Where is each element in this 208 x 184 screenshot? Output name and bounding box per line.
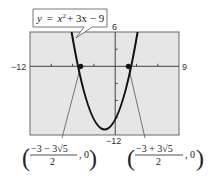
xmax-label: 9	[182, 62, 187, 72]
left-numerator: −3 − 3√5	[31, 143, 68, 154]
viewing-window	[30, 32, 179, 135]
right-numerator: −3 + 3√5	[136, 143, 173, 154]
intercept-point-right	[126, 64, 131, 69]
svg-text:): )	[89, 145, 97, 171]
graph-figure: −12 9 6 −12 y = x2+ 3x − 9 ( −3 − 3√5 2 …	[0, 0, 208, 184]
xmin-label: −12	[11, 62, 26, 72]
intercept-label-left: ( −3 − 3√5 2 , 0 )	[22, 143, 97, 172]
right-denominator: 2	[156, 156, 161, 167]
svg-text:): )	[196, 145, 204, 171]
eq-lhs: y	[36, 12, 42, 24]
eq-rest: + 3x − 9	[67, 12, 105, 24]
ymax-label: 6	[112, 22, 117, 32]
eq-exp: 2	[63, 12, 67, 20]
ymin-label: −12	[106, 136, 121, 146]
eq-equals: =	[47, 12, 53, 24]
svg-text:,: ,	[185, 149, 188, 160]
intercept-label-right: ( −3 + 3√5 2 , 0 )	[127, 143, 204, 171]
left-denominator: 2	[50, 156, 55, 167]
svg-text:y = x2+ 3x − 9: y = x2+ 3x − 9	[36, 12, 105, 24]
svg-text:,: ,	[79, 149, 82, 160]
svg-text:(: (	[22, 143, 30, 172]
right-y-value: 0	[190, 149, 195, 160]
svg-text:(: (	[127, 145, 135, 171]
intercept-point-left	[78, 64, 83, 69]
